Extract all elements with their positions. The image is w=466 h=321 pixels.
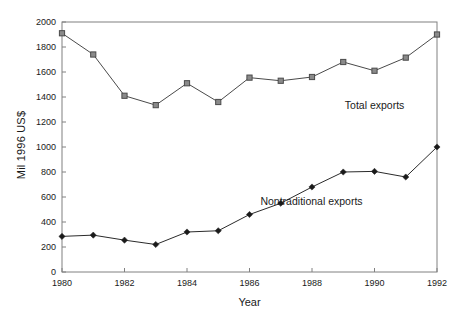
chart-container: Mil 1996 US$ Year 0200400600800100012001… [0, 0, 466, 321]
series-line [62, 147, 437, 245]
x-tick-label: 1990 [355, 278, 395, 288]
y-tick-label: 2000 [10, 17, 56, 27]
chart-series-lines [59, 31, 440, 248]
series-data-point [340, 169, 346, 175]
series-data-point [215, 228, 221, 234]
series-line [62, 33, 437, 105]
chart-axes [62, 22, 437, 272]
chart-tick-marks [62, 22, 437, 272]
series-data-point [341, 59, 346, 64]
series-data-point [434, 32, 439, 37]
series-data-point [278, 78, 283, 83]
series-data-point [184, 81, 189, 86]
y-tick-label: 1800 [10, 42, 56, 52]
series-data-point [59, 233, 65, 239]
x-tick-label: 1986 [230, 278, 270, 288]
y-tick-label: 1400 [10, 92, 56, 102]
series-data-point [309, 184, 315, 190]
series-data-point [121, 237, 127, 243]
series-data-point [153, 241, 159, 247]
series-label: Nontraditional exports [260, 195, 362, 207]
y-tick-label: 1200 [10, 117, 56, 127]
series-data-point [403, 55, 408, 60]
series-data-point [59, 31, 64, 36]
series-data-point [184, 229, 190, 235]
y-tick-label: 200 [10, 242, 56, 252]
y-tick-label: 0 [10, 267, 56, 277]
series-data-point [246, 211, 252, 217]
x-tick-label: 1982 [105, 278, 145, 288]
series-data-point [247, 75, 252, 80]
series-data-point [153, 103, 158, 108]
y-tick-label: 800 [10, 167, 56, 177]
y-tick-label: 600 [10, 192, 56, 202]
x-tick-label: 1980 [42, 278, 82, 288]
y-tick-label: 1600 [10, 67, 56, 77]
y-tick-label: 400 [10, 217, 56, 227]
x-tick-label: 1984 [167, 278, 207, 288]
series-label: Total exports [345, 99, 405, 111]
series-data-point [309, 74, 314, 79]
series-data-point [90, 232, 96, 238]
series-data-point [372, 68, 377, 73]
x-tick-label: 1988 [292, 278, 332, 288]
chart-plot-area [0, 0, 466, 321]
series-data-point [216, 99, 221, 104]
series-data-point [91, 52, 96, 57]
series-data-point [371, 168, 377, 174]
series-data-point [122, 93, 127, 98]
x-axis-label: Year [62, 296, 437, 308]
x-tick-label: 1992 [417, 278, 457, 288]
y-tick-label: 1000 [10, 142, 56, 152]
